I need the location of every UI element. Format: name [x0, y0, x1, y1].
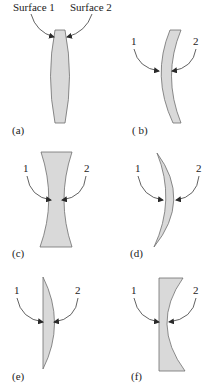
- surface-2-arrow: [176, 176, 199, 200]
- surface-1-label: 1: [135, 162, 141, 174]
- surface-2-arrow: [169, 298, 196, 322]
- panel-b-caption: ( b): [132, 124, 148, 137]
- panel-f-caption: (f): [131, 370, 142, 383]
- surface-2-label: 2: [193, 35, 199, 47]
- surface-2-arrow: [67, 14, 92, 37]
- surface-2-arrow: [54, 298, 78, 322]
- panel-e: 1 2 (e): [12, 277, 81, 383]
- panel-f: 1 2 (f): [131, 278, 199, 383]
- surface-1-arrow: [134, 49, 159, 71]
- surface-1-label: 1: [131, 284, 137, 296]
- lens-e-plano-convex: [43, 277, 55, 369]
- lens-c-biconcave: [40, 152, 72, 247]
- panel-c-caption: (c): [12, 247, 25, 260]
- panel-c: 1 2 (c): [12, 152, 90, 260]
- surface-1-arrow: [31, 14, 54, 37]
- surface-2-arrow: [172, 49, 196, 71]
- lens-f-plano-concave: [159, 278, 185, 371]
- surface-1-arrow: [138, 176, 163, 200]
- surface-2-label: 2: [193, 284, 199, 296]
- lens-shapes-diagram: Surface 1 Surface 2 (a) 1 2 ( b) 1 2 (c)…: [0, 0, 205, 390]
- surface-1-arrow: [17, 298, 43, 322]
- lens-b-meniscus: [161, 30, 181, 123]
- panel-a: Surface 1 Surface 2 (a): [12, 1, 112, 137]
- panel-b: 1 2 ( b): [131, 30, 199, 137]
- surface-1-label: 1: [14, 284, 20, 296]
- surface-2-label: Surface 2: [70, 1, 112, 13]
- lens-a-biconvex: [51, 30, 70, 123]
- panel-d: 1 2 (d): [130, 153, 202, 260]
- panel-a-caption: (a): [12, 124, 25, 137]
- surface-2-label: 2: [84, 162, 90, 174]
- panel-e-caption: (e): [12, 370, 25, 383]
- surface-2-label: 2: [196, 162, 202, 174]
- lens-d-meniscus: [154, 153, 174, 247]
- surface-2-label: 2: [75, 284, 81, 296]
- surface-1-arrow: [134, 298, 159, 322]
- surface-1-label: 1: [23, 162, 29, 174]
- panel-d-caption: (d): [130, 247, 143, 260]
- surface-1-label: Surface 1: [13, 1, 55, 13]
- surface-1-label: 1: [131, 35, 137, 47]
